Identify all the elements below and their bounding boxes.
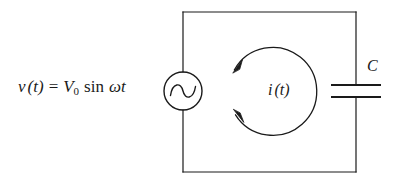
source-voltage-equation: v(t)=V0sinωt (18, 78, 126, 97)
capacitor (331, 85, 381, 97)
current-label: i(t) (268, 82, 290, 98)
equation-equals: = (49, 77, 59, 96)
equation-V: V (63, 77, 73, 96)
equation-V-subscript: 0 (74, 85, 80, 97)
current-arrowhead-upper (233, 60, 243, 73)
ac-voltage-source (164, 72, 202, 110)
equation-omega-t: t (121, 77, 126, 96)
equation-v: v (18, 77, 26, 96)
current-label-paren-close: ) (284, 81, 289, 98)
equation-paren-close: ) (38, 77, 44, 96)
capacitor-label: C (367, 58, 378, 74)
current-label-i: i (268, 81, 272, 98)
equation-sin: sin (84, 77, 104, 96)
sine-wave-icon (171, 85, 196, 97)
circuit-diagram-figure: v(t)=V0sinωt i(t) C (0, 0, 405, 182)
current-arrowhead-lower (234, 110, 244, 123)
equation-omega: ω (109, 77, 121, 96)
